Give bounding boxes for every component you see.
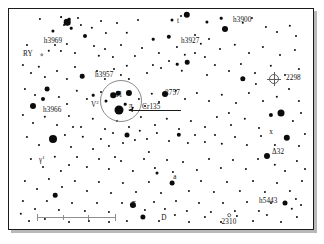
object-label: υ1: [115, 92, 122, 99]
star-marker: [100, 20, 102, 22]
star-marker: [64, 134, 66, 136]
star-marker: [178, 128, 180, 130]
star-marker: [128, 78, 130, 80]
star-marker: [208, 100, 210, 102]
star-marker: [246, 144, 248, 146]
star-marker: [304, 133, 306, 135]
open-cluster-icon: [269, 74, 279, 84]
star-marker: [74, 52, 76, 54]
star-marker: [22, 64, 24, 66]
object-label: π: [129, 103, 133, 110]
star-marker: [160, 192, 162, 194]
star-marker: [51, 29, 54, 32]
star-marker: [288, 88, 290, 90]
scale-bar-end-tick: [115, 214, 116, 221]
star-marker: [44, 76, 46, 78]
star-marker: [166, 118, 168, 120]
star-marker: [228, 112, 230, 114]
star-marker: [262, 46, 264, 48]
star-marker: [80, 74, 85, 79]
star-marker: [254, 72, 256, 74]
star-marker: [152, 64, 154, 66]
star-marker: [252, 180, 254, 182]
star-marker: [148, 181, 150, 183]
object-label: 2310: [222, 219, 237, 226]
object-label: 2298: [286, 75, 301, 82]
variable-star-icon: [40, 53, 43, 56]
star-marker: [182, 161, 184, 163]
star-marker: [266, 214, 268, 216]
star-marker: [26, 44, 28, 46]
star-marker: [260, 135, 262, 137]
star-marker: [49, 135, 57, 143]
star-marker: [222, 26, 228, 32]
star-marker: [296, 216, 298, 218]
star-marker: [298, 145, 300, 147]
star-marker: [54, 156, 56, 158]
object-label: h3966: [43, 107, 61, 114]
star-marker: [298, 100, 300, 102]
star-marker: [198, 202, 200, 204]
star-marker: [141, 47, 143, 49]
star-marker: [221, 94, 223, 96]
star-marker: [228, 70, 230, 72]
star-marker: [53, 193, 58, 198]
star-marker: [146, 72, 148, 74]
star-marker: [22, 114, 24, 116]
star-marker: [289, 190, 291, 192]
star-marker: [184, 12, 190, 18]
star-marker: [234, 210, 236, 212]
star-marker: [126, 65, 128, 67]
star-marker: [28, 220, 30, 222]
scale-bar-tick: [88, 215, 89, 220]
star-marker: [291, 208, 293, 210]
star-marker: [304, 168, 306, 170]
star-marker: [298, 68, 300, 70]
star-marker: [181, 70, 183, 72]
star-marker: [214, 134, 216, 136]
object-label: Cr135: [142, 104, 160, 111]
star-marker: [232, 159, 234, 161]
star-marker: [236, 215, 238, 217]
star-marker: [264, 191, 266, 193]
object-label: h3927: [181, 38, 199, 45]
star-marker: [204, 216, 206, 218]
star-marker: [146, 138, 148, 140]
star-marker: [206, 74, 208, 76]
star-marker: [126, 32, 128, 34]
star-marker: [134, 139, 136, 141]
star-marker: [170, 181, 175, 186]
star-marker: [66, 103, 68, 105]
star-marker: [24, 88, 26, 90]
star-marker: [42, 166, 44, 168]
object-label: h5443: [259, 198, 277, 205]
star-marker: [98, 158, 100, 160]
star-marker: [143, 158, 145, 160]
star-marker: [71, 202, 73, 204]
star-marker: [210, 211, 212, 213]
star-marker: [187, 142, 189, 144]
star-marker: [56, 70, 58, 72]
object-label: x: [269, 129, 273, 136]
star-marker: [276, 182, 278, 184]
star-marker: [86, 190, 88, 192]
star-marker: [234, 136, 236, 138]
star-marker: [154, 124, 156, 126]
star-marker: [274, 164, 276, 166]
star-marker: [158, 220, 160, 222]
star-marker: [156, 172, 159, 175]
star-marker: [284, 170, 286, 172]
star-marker: [279, 54, 281, 56]
star-marker: [22, 200, 24, 202]
star-marker: [205, 20, 208, 23]
star-marker: [258, 210, 260, 212]
star-marker: [188, 221, 190, 223]
star-marker: [66, 78, 68, 80]
star-marker: [246, 201, 248, 203]
star-marker: [112, 56, 114, 58]
star-marker: [185, 60, 190, 65]
star-marker: [184, 98, 186, 100]
star-marker: [104, 48, 106, 50]
star-marker: [70, 27, 73, 30]
star-marker: [276, 31, 278, 33]
